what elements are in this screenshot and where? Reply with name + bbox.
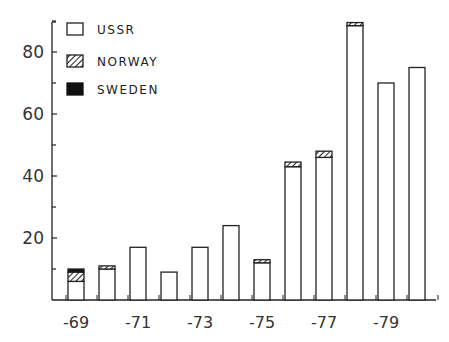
legend-swatch-norway xyxy=(67,55,83,67)
bar--71 xyxy=(130,247,146,300)
x-tick-label: -77 xyxy=(311,313,337,332)
bar--78 xyxy=(347,23,363,300)
bar--76 xyxy=(285,162,301,300)
bar--77 xyxy=(316,151,332,300)
bar-segment-ussr xyxy=(192,247,208,300)
bar-segment-norway xyxy=(316,151,332,157)
legend-swatch-sweden xyxy=(67,83,83,95)
bar-segment-ussr xyxy=(347,26,363,300)
bar-segment-ussr xyxy=(223,226,239,300)
bar--74 xyxy=(223,226,239,300)
bar-segment-ussr xyxy=(130,247,146,300)
bar-segment-ussr xyxy=(316,157,332,300)
bar-segment-sweden xyxy=(68,269,84,272)
bar--80 xyxy=(409,68,425,301)
legend-label-sweden: SWEDEN xyxy=(97,83,159,97)
bar-segment-ussr xyxy=(285,167,301,300)
bar-segment-norway xyxy=(285,162,301,167)
legend-swatch-ussr xyxy=(67,23,83,35)
bar-segment-ussr xyxy=(68,281,84,300)
x-tick-label: -71 xyxy=(125,313,151,332)
bar-segment-norway xyxy=(68,272,84,281)
bar--70 xyxy=(99,266,115,300)
x-tick-label: -69 xyxy=(63,313,89,332)
legend-label-norway: NORWAY xyxy=(97,55,158,69)
y-axis: 20406080 xyxy=(22,21,57,300)
y-tick-label: 20 xyxy=(22,228,44,248)
x-tick-label: -73 xyxy=(187,313,213,332)
bar--75 xyxy=(254,260,270,300)
bar--79 xyxy=(378,83,394,300)
bar-segment-ussr xyxy=(378,83,394,300)
y-tick-label: 80 xyxy=(22,42,44,62)
bar-segment-ussr xyxy=(254,263,270,300)
bar--69 xyxy=(68,269,84,300)
bar-segment-ussr xyxy=(161,272,177,300)
bar--72 xyxy=(161,272,177,300)
y-tick-label: 60 xyxy=(22,104,44,124)
x-tick-label: -79 xyxy=(373,313,399,332)
bar-segment-norway xyxy=(99,266,115,269)
bar-chart: 20406080 -69-71-73-75-77-79 USSR NORWAY … xyxy=(0,0,449,342)
y-tick-label: 40 xyxy=(22,166,44,186)
bar-segment-norway xyxy=(347,23,363,26)
legend: USSR NORWAY SWEDEN xyxy=(67,23,159,97)
legend-label-ussr: USSR xyxy=(97,23,135,37)
bar-segment-norway xyxy=(254,260,270,263)
bar-segment-ussr xyxy=(409,68,425,301)
x-tick-label: -75 xyxy=(249,313,275,332)
bar-segment-ussr xyxy=(99,269,115,300)
bar--73 xyxy=(192,247,208,300)
